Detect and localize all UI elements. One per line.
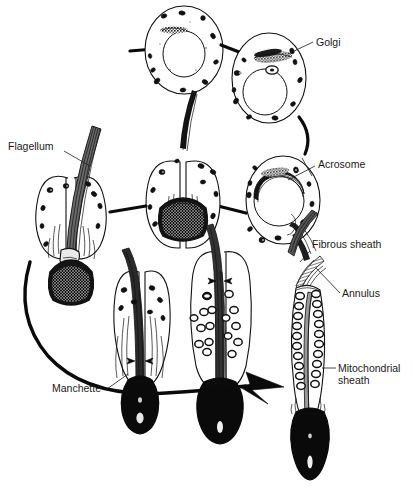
label-fibrous-sheath-text: Fibrous sheath [312,238,382,250]
stage-7-mitochondria-migration [190,224,251,444]
label-acrosome-text: Acrosome [318,158,365,170]
label-mitochondrial-sheath-text: Mitochondrial [338,362,400,374]
label-flagellum-text: Flagellum [8,140,54,152]
spermiogenesis-figure: Golgi Flagellum Acrosome Fibrous sheath … [0,0,413,499]
stage-4-condensing-nucleus [159,198,208,241]
stage-2-acrosomal-vesicle [266,66,278,74]
stage-2-nucleus [243,69,287,115]
label-manchette-text: Manchette [52,382,101,394]
stage-6-condensed-nucleus [121,376,159,434]
label-golgi-text: Golgi [316,36,341,48]
label-mitochondrial-sheath-text-2: sheath [338,374,370,386]
stage-2-golgi-phase [231,33,306,123]
label-annulus-text: Annulus [342,287,380,299]
stage-1-golgi [160,26,188,33]
stage-5-condensing-nucleus [49,260,94,305]
stage-1-nucleus [163,31,205,77]
